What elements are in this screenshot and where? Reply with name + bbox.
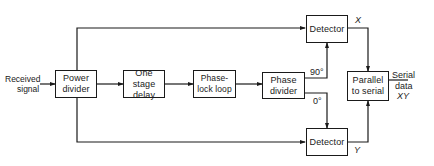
- power-divider-block: Power divider: [55, 70, 97, 98]
- phase-0-label: 0°: [313, 96, 322, 106]
- detector-bottom-label: Detector: [310, 137, 345, 148]
- parallel-to-serial-block: Parallel to serial: [347, 71, 389, 101]
- phase-lock-loop-label: Phase-lock loop: [194, 73, 235, 95]
- input-label-line1: Received: [5, 74, 40, 84]
- power-divider-label: Power divider: [59, 73, 93, 95]
- arrow-x-parallel: [348, 28, 368, 71]
- phase-divider-label: Phase divider: [266, 75, 302, 97]
- serial-label-line3: XY: [397, 91, 409, 101]
- detector-top-block: Detector: [306, 15, 348, 43]
- parallel-to-serial-label: Parallel to serial: [348, 75, 388, 97]
- arrow-pd-detector-top: [77, 28, 305, 70]
- serial-label-line2: data: [395, 81, 413, 91]
- input-label-line2: signal: [17, 84, 39, 94]
- arrow-y-parallel: [348, 101, 368, 142]
- phase-divider-block: Phase divider: [262, 72, 305, 99]
- one-stage-delay-label: One stage delay: [124, 68, 164, 101]
- phase-lock-loop-block: Phase-lock loop: [193, 70, 236, 98]
- arrow-pd-detector-bottom: [77, 98, 305, 142]
- output-x-label: X: [355, 15, 361, 25]
- output-y-label: Y: [354, 145, 360, 155]
- serial-label-line1: Serial: [392, 70, 415, 80]
- detector-bottom-block: Detector: [306, 128, 348, 156]
- one-stage-delay-block: One stage delay: [123, 70, 165, 98]
- detector-top-label: Detector: [310, 24, 345, 35]
- phase-90-label: 90°: [310, 67, 324, 77]
